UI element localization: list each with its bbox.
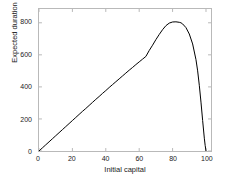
xtick-label-40: 40 [102, 155, 110, 163]
ytick-label-200: 200 [8, 116, 32, 124]
ytick-label-0: 0 [8, 148, 32, 156]
xtick-label-60: 60 [135, 155, 143, 163]
data-series-line [39, 22, 206, 151]
plot-area [38, 8, 212, 152]
xtick-label-100: 100 [201, 155, 213, 163]
xtick-label-0: 0 [36, 155, 40, 163]
plot-svg [39, 9, 211, 151]
x-axis-label: Initial capital [38, 165, 212, 174]
xtick-label-20: 20 [68, 155, 76, 163]
figure-container: 800 600 400 200 0 0 20 40 60 80 100 Init… [0, 0, 234, 180]
y-axis-label: Expected duration [10, 0, 19, 85]
tick-marks [39, 9, 211, 151]
xtick-label-80: 80 [169, 155, 177, 163]
